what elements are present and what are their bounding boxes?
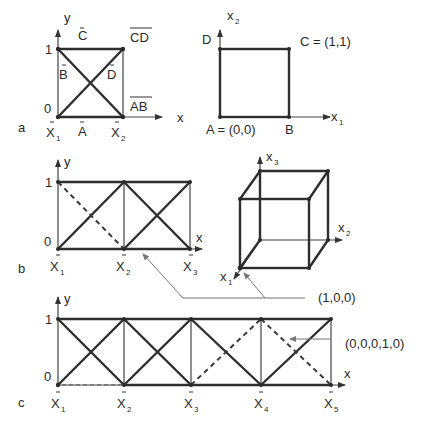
y-axis-label: y	[64, 10, 71, 25]
svg-text:X: X	[116, 259, 125, 274]
svg-text:X: X	[117, 396, 126, 411]
coord-label-x4: X 4	[254, 392, 269, 414]
vertex-c-dot	[287, 47, 291, 51]
svg-text:2: 2	[127, 405, 132, 414]
vertex-dot	[56, 317, 60, 321]
vertex-dot	[188, 247, 192, 251]
svg-text:2: 2	[121, 134, 126, 143]
vertex-dot	[258, 169, 262, 173]
svg-text:X: X	[183, 259, 192, 274]
x1-axis-label: x 1	[220, 269, 233, 287]
vertex-dot	[56, 47, 60, 51]
x1-axis-label: x 1	[331, 109, 344, 127]
vertex-dot	[189, 317, 193, 321]
panel-tag-b: b	[18, 261, 25, 276]
svg-text:1: 1	[56, 134, 61, 143]
vertex-b-label: B	[285, 122, 294, 137]
x2-axis-label: x 2	[227, 8, 240, 26]
cube-front-face	[240, 199, 309, 268]
coord-label-x3: X 3	[184, 392, 199, 414]
svg-text:2: 2	[346, 229, 351, 238]
cube-edge	[309, 171, 328, 199]
svg-text:2: 2	[235, 17, 240, 26]
svg-text:2: 2	[126, 268, 131, 277]
vertex-dot	[56, 115, 60, 119]
svg-text:X: X	[50, 259, 59, 274]
y-axis-label: y	[64, 154, 71, 169]
svg-text:D: D	[107, 67, 116, 82]
vertex-dot	[121, 115, 125, 119]
cube-edge	[240, 240, 260, 268]
svg-text:x: x	[227, 8, 234, 23]
vertex-dot	[56, 180, 60, 184]
svg-text:3: 3	[274, 158, 279, 167]
svg-text:4: 4	[264, 405, 269, 414]
coord-label-x1: X 1	[51, 392, 66, 414]
x3-axis-label: x 3	[266, 149, 279, 167]
edge-label-d: D	[107, 65, 116, 82]
vertex-d-dot	[218, 47, 222, 51]
svg-text:1: 1	[61, 405, 66, 414]
svg-text:x: x	[220, 269, 227, 284]
vertex-dot	[122, 317, 126, 321]
coord-label-x5: X 5	[324, 392, 339, 414]
panel-tag-c: c	[18, 395, 25, 410]
callout-00010: (0,0,0,1,0)	[290, 336, 404, 351]
vertex-dot	[188, 180, 192, 184]
svg-text:CD: CD	[130, 30, 149, 45]
svg-text:X: X	[51, 396, 60, 411]
coord-label-x2: X 2	[111, 122, 126, 143]
panel-c-parallel-coords: y x 1 0 c X 1 X 2 X 3 X 4 X 5	[18, 291, 404, 414]
x-axis-label: x	[177, 110, 184, 125]
cube-edge	[309, 240, 328, 268]
panel-b-parallel-coords: y x 1 0 b X 1 X 2 X 3	[18, 154, 203, 277]
parallel-coordinates-figure: y x 1 0 a X 1 X 2 C B D A	[0, 0, 422, 432]
vertex-dot	[307, 266, 311, 270]
tick-0: 0	[44, 234, 51, 249]
vertex-dot	[326, 169, 330, 173]
vertex-dot	[326, 238, 330, 242]
corner-label-cd: CD	[130, 28, 152, 45]
tick-1: 1	[45, 312, 52, 327]
vertex-dot	[259, 383, 263, 387]
edge-label-a: A	[78, 122, 87, 139]
svg-text:X: X	[324, 396, 333, 411]
svg-text:x: x	[331, 109, 338, 124]
edge-label-b: B	[59, 65, 68, 82]
vertex-b-dot	[287, 115, 291, 119]
callout-line-to-cube-vertex	[244, 273, 265, 298]
svg-text:x: x	[266, 149, 273, 164]
tick-1: 1	[45, 42, 52, 57]
coord-label-x1: X 1	[46, 122, 61, 143]
corner-label-ab: AB	[130, 97, 152, 114]
vertex-a-label: A = (0,0)	[206, 122, 256, 137]
vertex-dot	[258, 238, 262, 242]
x2-axis-label: x 2	[338, 220, 351, 238]
vertex-d-label: D	[202, 32, 211, 47]
coord-label-x1: X 1	[50, 255, 65, 277]
panel-b-cube: x 3 x 2 x 1	[220, 149, 351, 287]
tick-0: 0	[44, 101, 51, 116]
svg-text:X: X	[254, 396, 263, 411]
svg-text:1: 1	[339, 118, 344, 127]
svg-text:X: X	[46, 125, 55, 140]
svg-text:5: 5	[334, 405, 339, 414]
tick-1: 1	[45, 175, 52, 190]
vertex-dot	[56, 247, 60, 251]
svg-text:X: X	[184, 396, 193, 411]
vertex-dot	[238, 197, 242, 201]
svg-text:1: 1	[60, 268, 65, 277]
svg-text:AB: AB	[130, 99, 147, 114]
svg-text:C: C	[78, 28, 87, 43]
svg-text:3: 3	[194, 405, 199, 414]
vertex-dot	[329, 317, 333, 321]
coord-label-x2: X 2	[116, 255, 131, 277]
svg-text:x: x	[338, 220, 345, 235]
coord-label-x2: X 2	[117, 392, 132, 414]
svg-text:1: 1	[228, 278, 233, 287]
svg-text:B: B	[59, 67, 68, 82]
coord-label-x3: X 3	[183, 255, 198, 277]
vertex-c-label: C = (1,1)	[300, 34, 351, 49]
x-axis-label: x	[344, 366, 351, 381]
vertex-100-dot	[238, 266, 243, 271]
